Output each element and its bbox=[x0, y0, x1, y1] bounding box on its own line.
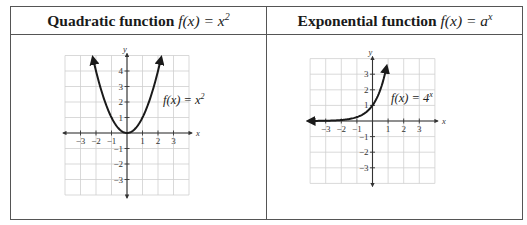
quadratic-graph: −3−2−11234321−1−2−3xy f(x) = x2 bbox=[63, 44, 205, 199]
x-tick-label: 3 bbox=[171, 136, 176, 146]
x-tick-label: −3 bbox=[321, 124, 331, 134]
x-tick-label: 3 bbox=[417, 124, 422, 134]
y-axis-name: y bbox=[368, 47, 373, 57]
y-tick-label: −2 bbox=[359, 147, 369, 157]
exponential-graph: −3−2−1123321−1−2−3xy f(x) = 4x bbox=[308, 47, 446, 187]
graphs-canvas: −3−2−11234321−1−2−3xy f(x) = x2 −3−2−112… bbox=[0, 0, 527, 225]
x-tick-label: 2 bbox=[401, 124, 406, 134]
exponential-function-label: f(x) = 4x bbox=[391, 90, 433, 105]
y-tick-label: 3 bbox=[364, 69, 369, 79]
y-tick-label: −1 bbox=[359, 132, 369, 142]
x-tick-label: 1 bbox=[140, 136, 145, 146]
y-tick-label: 4 bbox=[119, 66, 124, 76]
y-tick-label: −1 bbox=[113, 144, 123, 154]
x-tick-label: 2 bbox=[156, 136, 161, 146]
y-tick-label: 2 bbox=[364, 85, 369, 95]
y-tick-label: 3 bbox=[119, 82, 124, 92]
quadratic-function-label: f(x) = x2 bbox=[163, 92, 205, 107]
exponential-curve bbox=[309, 67, 387, 121]
x-tick-label: −3 bbox=[76, 136, 86, 146]
x-tick-label: −2 bbox=[337, 124, 347, 134]
y-tick-label: 1 bbox=[119, 113, 124, 123]
quadratic-axes bbox=[63, 54, 192, 199]
y-tick-label: −2 bbox=[113, 159, 123, 169]
y-tick-label: −3 bbox=[113, 175, 123, 185]
y-tick-label: −3 bbox=[359, 163, 369, 173]
y-tick-label: 2 bbox=[119, 97, 124, 107]
x-tick-label: 1 bbox=[386, 124, 391, 134]
x-axis-name: x bbox=[441, 116, 446, 126]
x-axis-name: x bbox=[195, 128, 200, 138]
exponential-tick-labels: −3−2−1123321−1−2−3xy bbox=[321, 47, 446, 173]
y-tick-label: 1 bbox=[364, 100, 369, 110]
y-axis-name: y bbox=[122, 44, 127, 54]
x-tick-label: −2 bbox=[91, 136, 101, 146]
